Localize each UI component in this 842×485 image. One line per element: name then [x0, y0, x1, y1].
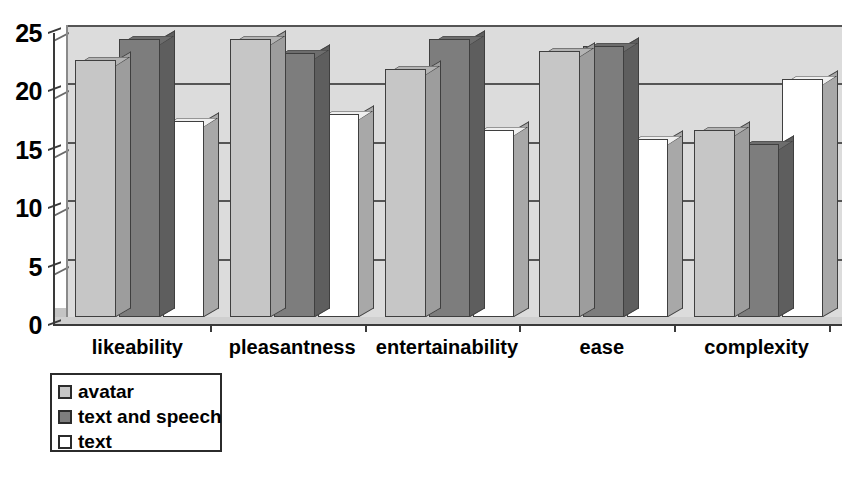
- bar-front-face: [694, 130, 735, 317]
- x-category-label-ease: ease: [580, 336, 625, 359]
- bar-side-face: [668, 131, 683, 317]
- legend-swatch-icon: [58, 385, 72, 399]
- x-category-label-pleasantness: pleasantness: [229, 336, 356, 359]
- legend-item-label: avatar: [78, 382, 134, 401]
- x-category-label-likeability: likeability: [92, 336, 183, 359]
- bar-chart: 0510152025 likeabilitypleasantnessentert…: [0, 0, 842, 485]
- bar-likeability-avatar: [75, 60, 116, 317]
- bar-side-face: [315, 44, 330, 317]
- x-tick-3: [674, 326, 676, 332]
- bar-front-face: [75, 60, 116, 317]
- x-tick-2: [519, 326, 521, 332]
- legend-swatch-icon: [58, 435, 72, 449]
- x-category-label-entertainability: entertainability: [376, 336, 518, 359]
- bar-front-face: [385, 69, 426, 317]
- legend-item-label: text and speech: [78, 407, 222, 426]
- legend-swatch-icon: [58, 410, 72, 424]
- bar-side-face: [514, 121, 529, 317]
- bar-side-face: [735, 121, 750, 317]
- legend-item-text-and-speech[interactable]: text and speech: [58, 404, 214, 429]
- bar-front-face: [539, 51, 580, 317]
- bar-side-face: [779, 135, 794, 317]
- bar-side-face: [426, 61, 441, 317]
- bar-side-face: [204, 112, 219, 317]
- bar-side-face: [624, 37, 639, 317]
- bar-front-face: [230, 39, 271, 317]
- bar-side-face: [823, 70, 838, 317]
- x-tick-1: [365, 326, 367, 332]
- legend-item-label: text: [78, 432, 112, 451]
- legend-item-text[interactable]: text: [58, 429, 214, 454]
- legend-item-avatar[interactable]: avatar: [58, 379, 214, 404]
- bar-ease-avatar: [539, 51, 580, 317]
- bar-complexity-avatar: [694, 130, 735, 317]
- x-tick-0: [210, 326, 212, 332]
- bar-side-face: [470, 30, 485, 317]
- bar-entertainability-avatar: [385, 69, 426, 317]
- bar-pleasantness-avatar: [230, 39, 271, 317]
- bar-side-face: [359, 105, 374, 317]
- x-tick-4: [829, 326, 831, 332]
- bar-side-face: [160, 30, 175, 317]
- bar-side-face: [116, 51, 131, 317]
- x-category-label-complexity: complexity: [704, 336, 808, 359]
- chart-legend: avatartext and speechtext: [50, 373, 222, 452]
- bar-side-face: [271, 30, 286, 317]
- bar-side-face: [580, 42, 595, 317]
